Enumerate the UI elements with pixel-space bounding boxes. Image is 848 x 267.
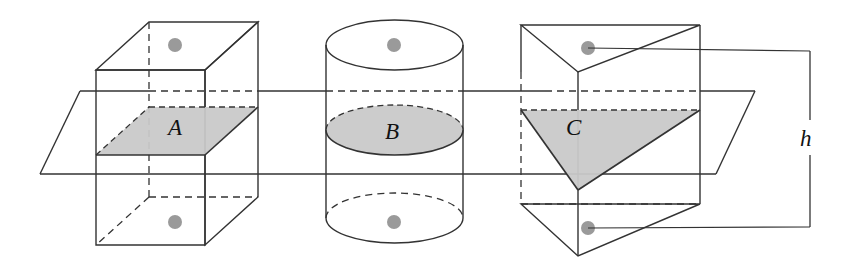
- cube-top-center-dot: [168, 38, 182, 52]
- geometry-diagram: A B: [0, 0, 848, 267]
- cube-bottom-center-dot: [168, 215, 182, 229]
- cylinder-top-center-dot: [387, 38, 401, 52]
- cylinder-bottom-back-arc: [326, 193, 463, 218]
- prism-bottom-face: [521, 204, 700, 256]
- solid-cylinder: B: [326, 20, 463, 243]
- label-cross-section-b: B: [385, 119, 399, 144]
- solid-triangular-prism: C: [521, 25, 810, 256]
- solid-cube: A: [96, 22, 258, 245]
- plane-left-edge: [40, 91, 80, 174]
- label-height-h: h: [800, 126, 812, 151]
- prism-cross-section-fill: [521, 110, 700, 190]
- prism-top-dot-leader-line: [588, 48, 810, 51]
- label-cross-section-a: A: [166, 115, 183, 140]
- height-bracket: h: [800, 51, 812, 227]
- figure-canvas: A B: [0, 0, 848, 267]
- cube-hidden-bottom-left-edge: [96, 197, 149, 245]
- cube-front-face: [96, 70, 205, 245]
- label-cross-section-c: C: [566, 115, 582, 140]
- prism-bottom-dot-leader-line: [588, 227, 810, 228]
- cylinder-bottom-center-dot: [387, 215, 401, 229]
- plane-right-edge: [716, 91, 755, 174]
